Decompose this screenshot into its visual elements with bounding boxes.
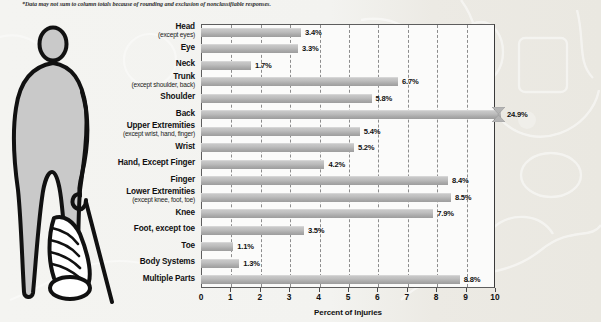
bar-finger xyxy=(201,176,448,185)
bar-neck xyxy=(201,61,251,70)
chart-category-labels: Head(except eyes)EyeNeckTrunk(except sho… xyxy=(96,24,199,288)
category-label-main: Toe xyxy=(181,242,195,250)
bar-wrist xyxy=(201,143,354,152)
bar-multiple-parts xyxy=(201,275,460,284)
category-label-main: Back xyxy=(176,110,195,118)
axis-break-mark xyxy=(492,107,505,122)
bar-eye xyxy=(201,44,298,53)
category-label-main: Finger xyxy=(171,176,195,184)
injury-body-part-chart: Head(except eyes)EyeNeckTrunk(except sho… xyxy=(96,24,496,309)
category-label-main: Knee xyxy=(175,209,195,217)
category-label-main: Body Systems xyxy=(140,258,195,266)
x-axis-title: Percent of Injuries xyxy=(201,308,495,317)
category-label-sub: (except shoulder, back) xyxy=(131,82,195,89)
bar-value-label: 3.5% xyxy=(308,226,325,235)
category-label: Foot, except toe xyxy=(134,225,195,233)
category-label-main: Hand, Except Finger xyxy=(118,159,195,167)
x-tick-label: 9 xyxy=(463,292,468,302)
category-label: Neck xyxy=(176,60,195,68)
bar-hand-except-finger xyxy=(201,160,324,169)
category-label: Shoulder xyxy=(160,93,195,101)
bar-trunk xyxy=(201,77,398,86)
bar-body-systems xyxy=(201,259,239,268)
bar-head xyxy=(201,28,301,37)
bar-value-label: 3.4% xyxy=(305,28,322,37)
x-tick-label: 10 xyxy=(490,292,499,302)
category-label: Lower Extremities(except knee, foot, toe… xyxy=(126,188,195,204)
bar-upper-extremities xyxy=(201,127,360,136)
x-tick-label: 3 xyxy=(287,292,292,302)
category-label-main: Shoulder xyxy=(160,93,195,101)
category-label: Back xyxy=(176,110,195,118)
bar-value-label: 5.4% xyxy=(364,127,381,136)
category-label: Upper Extremities(except wrist, hand, fi… xyxy=(123,122,195,138)
category-label: Trunk(except shoulder, back) xyxy=(131,73,195,89)
bar-toe xyxy=(201,242,233,251)
bar-value-label: 6.7% xyxy=(402,77,419,86)
x-tick-label: 8 xyxy=(434,292,439,302)
bar-value-label: 1.3% xyxy=(243,259,260,268)
category-label-main: Foot, except toe xyxy=(134,225,195,233)
category-label: Multiple Parts xyxy=(143,275,195,283)
category-label-main: Upper Extremities xyxy=(123,122,195,130)
bar-value-label: 8.4% xyxy=(452,176,469,185)
bar-value-label: 8.8% xyxy=(464,275,481,284)
category-label: Head(except eyes) xyxy=(158,23,195,39)
category-label-main: Neck xyxy=(176,60,195,68)
bar-value-label: 4.2% xyxy=(328,160,345,169)
bar-value-label: 8.5% xyxy=(455,193,472,202)
x-tick-label: 5 xyxy=(346,292,351,302)
bar-lower-extremities xyxy=(201,193,451,202)
chart-bars: 3.4%3.3%1.7%6.7%5.8%24.9%5.4%5.2%4.2%8.4… xyxy=(201,24,495,288)
category-label-main: Wrist xyxy=(175,143,195,151)
x-tick-label: 6 xyxy=(375,292,380,302)
x-tick-label: 4 xyxy=(316,292,321,302)
category-label-main: Trunk xyxy=(131,73,195,81)
category-label-main: Multiple Parts xyxy=(143,275,195,283)
category-label: Toe xyxy=(181,242,195,250)
category-label: Hand, Except Finger xyxy=(118,159,195,167)
category-label-sub: (except wrist, hand, finger) xyxy=(123,131,195,138)
bar-value-label: 3.3% xyxy=(302,44,319,53)
bar-value-label: 5.2% xyxy=(358,143,375,152)
x-tick-label: 0 xyxy=(199,292,204,302)
bar-value-label: 1.7% xyxy=(255,61,272,70)
category-label-sub: (except eyes) xyxy=(158,32,195,39)
bar-back xyxy=(201,110,501,119)
bar-value-label: 1.1% xyxy=(237,242,254,251)
category-label-sub: (except knee, foot, toe) xyxy=(126,197,195,204)
bar-value-label: 5.8% xyxy=(376,94,393,103)
chart-x-axis: 012345678910 xyxy=(201,288,495,310)
x-tick-label: 7 xyxy=(404,292,409,302)
bar-shoulder xyxy=(201,94,372,103)
x-tick-label: 1 xyxy=(228,292,233,302)
category-label: Eye xyxy=(181,44,195,52)
category-label: Finger xyxy=(171,176,195,184)
category-label-main: Lower Extremities xyxy=(126,188,195,196)
bar-knee xyxy=(201,209,433,218)
category-label-main: Eye xyxy=(181,44,195,52)
category-label: Body Systems xyxy=(140,258,195,266)
x-tick-label: 2 xyxy=(257,292,262,302)
bar-value-label: 7.9% xyxy=(437,209,454,218)
footnote-text: *Data may not sum to column totals becau… xyxy=(22,1,352,7)
category-label: Wrist xyxy=(175,143,195,151)
category-label: Knee xyxy=(175,209,195,217)
bar-value-label: 24.9% xyxy=(507,110,528,119)
category-label-main: Head xyxy=(158,23,195,31)
bar-foot-except-toe xyxy=(201,226,304,235)
